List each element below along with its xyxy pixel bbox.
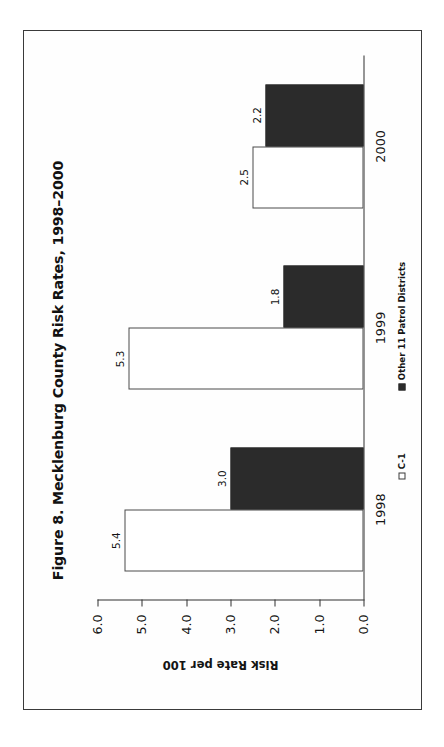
chart-legend: C-1 Other 11 Patrol Districts [395,30,406,710]
y-tick-label: 5.0 [133,614,148,660]
legend-label-c1: C-1 [396,453,406,469]
bar-value-label: 1.8 [268,260,280,334]
y-tick-mark [319,599,320,606]
legend-swatch-dark-icon [398,383,405,390]
y-tick-label: 0.0 [355,614,370,660]
bar-1998-series1 [124,509,363,571]
category-label-2000: 2000 [372,96,387,196]
y-tick-mark [363,599,364,606]
y-tick-mark [97,599,98,606]
y-tick-label: 2.0 [266,614,281,660]
bar-value-label: 3.0 [215,441,227,515]
plot-area: Risk Rate per 100 0.01.02.03.04.05.06.0 … [23,30,422,710]
bar-1999-series1 [128,328,363,390]
y-tick-label: 4.0 [178,614,193,660]
legend-item-other-districts: Other 11 Patrol Districts [396,261,406,389]
category-label-1998: 1998 [372,459,387,559]
y-tick-mark [186,599,187,606]
bar-1998-series2 [230,447,363,509]
legend-label-other-districts: Other 11 Patrol Districts [396,261,406,379]
bar-2000-series2 [265,84,363,146]
y-tick-label: 3.0 [222,614,237,660]
bar-value-label: 2.5 [237,140,249,214]
y-axis-title: Risk Rate per 100 [130,657,310,671]
y-tick-mark [230,599,231,606]
bar-value-label: 2.2 [250,78,262,152]
y-tick-label: 6.0 [89,614,104,660]
category-label-1999: 1999 [372,278,387,378]
figure-border: Figure 8. Mecklenburg County Risk Rates,… [23,30,422,710]
legend-item-c1: C-1 [396,453,406,479]
bar-1999-series2 [283,266,363,328]
bar-value-label: 5.4 [109,503,121,577]
rotated-figure-stage: Figure 8. Mecklenburg County Risk Rates,… [23,30,422,710]
y-tick-label: 1.0 [311,614,326,660]
bar-2000-series1 [252,146,363,208]
y-tick-mark [141,599,142,606]
y-tick-mark [274,599,275,606]
legend-swatch-light-icon [398,472,405,479]
bar-value-label: 5.3 [113,322,125,396]
